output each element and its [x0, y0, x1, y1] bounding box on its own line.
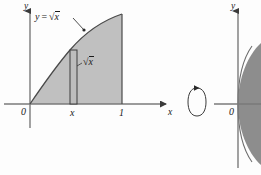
left-origin-label: 0	[21, 107, 26, 117]
representative-strip	[70, 50, 77, 104]
right-y-axis-label: y	[231, 2, 235, 12]
strip-height-label: √x	[83, 56, 94, 68]
strip-radicand: x	[89, 56, 94, 68]
equation-radicand: x	[55, 11, 60, 23]
figure-canvas	[0, 0, 261, 175]
right-origin-label: 0	[229, 107, 234, 117]
equation-equals: =	[39, 11, 49, 22]
rotation-arrow-group	[188, 88, 206, 116]
left-x-axis-label: x	[168, 108, 172, 118]
figure-root: y x 0 x 1 y=√x √x y 0	[0, 0, 261, 175]
one-tick-label: 1	[119, 108, 124, 118]
equation-leader-line	[73, 18, 84, 30]
x-tick-label: x	[70, 108, 74, 118]
curve-equation-label: y=√x	[35, 11, 60, 23]
left-y-axis-label: y	[24, 2, 28, 12]
right-panel-group	[214, 11, 261, 168]
rotation-arrow-ellipse	[188, 88, 206, 116]
left-panel-group	[4, 11, 166, 128]
